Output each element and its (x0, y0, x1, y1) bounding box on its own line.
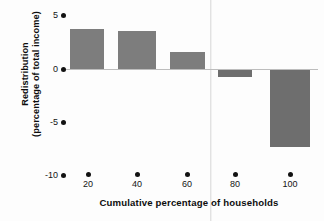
y-tick-label-minus10: -10 (45, 169, 58, 181)
x-tick-label-100: 100 (282, 179, 297, 190)
y-tick-label-5: 5 (53, 9, 58, 21)
x-tick-dot-100-icon (288, 172, 293, 177)
y-tick-dot-minus5-icon (61, 120, 66, 125)
y-tick-label-minus5: -5 (50, 116, 58, 128)
y-axis-title-line1: Redistribution (20, 42, 31, 106)
x-tick-dot-20-icon (86, 172, 91, 177)
bar-60 (170, 52, 205, 69)
redistribution-bar-chart: Redistribution (percentage of total inco… (0, 0, 324, 221)
bar-80 (218, 70, 252, 77)
scan-artifact-line-secondary (211, 0, 212, 221)
x-tick-100: 100 (282, 172, 298, 190)
x-tick-label-60: 60 (182, 179, 192, 190)
y-tick-label-0: 0 (53, 63, 58, 75)
bar-20 (70, 29, 104, 69)
x-tick-dot-80-icon (233, 172, 238, 177)
x-tick-label-20: 20 (83, 179, 93, 190)
x-axis-title: Cumulative percentage of households (64, 197, 314, 208)
y-tick-5: 5 (44, 9, 66, 21)
x-tick-dot-60-icon (185, 172, 190, 177)
x-tick-20: 20 (80, 172, 96, 190)
bar-40 (118, 31, 156, 69)
x-tick-60: 60 (179, 172, 195, 190)
x-tick-label-40: 40 (132, 179, 142, 190)
y-axis-title: Redistribution (percentage of total inco… (14, 0, 48, 162)
x-tick-40: 40 (129, 172, 145, 190)
y-tick-minus5: -5 (40, 116, 66, 128)
y-tick-dot-5-icon (61, 13, 66, 18)
x-tick-80: 80 (227, 172, 243, 190)
y-tick-dot-minus10-icon (61, 173, 66, 178)
x-tick-label-80: 80 (230, 179, 240, 190)
y-tick-minus10: -10 (34, 169, 66, 181)
x-tick-dot-40-icon (135, 172, 140, 177)
bar-100 (270, 70, 310, 147)
y-tick-0: 0 (44, 63, 66, 75)
